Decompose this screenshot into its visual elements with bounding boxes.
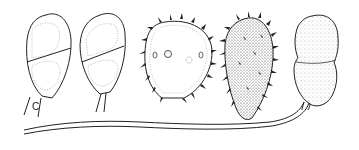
spore-3 (139, 13, 217, 103)
spore-4 (219, 11, 279, 120)
stalk-label: C (32, 101, 39, 112)
spore-2 (80, 14, 125, 112)
illustration-canvas (0, 0, 359, 150)
spore-5 (294, 15, 338, 110)
spore-illustration: C (0, 0, 359, 150)
long-stalk (24, 102, 309, 134)
